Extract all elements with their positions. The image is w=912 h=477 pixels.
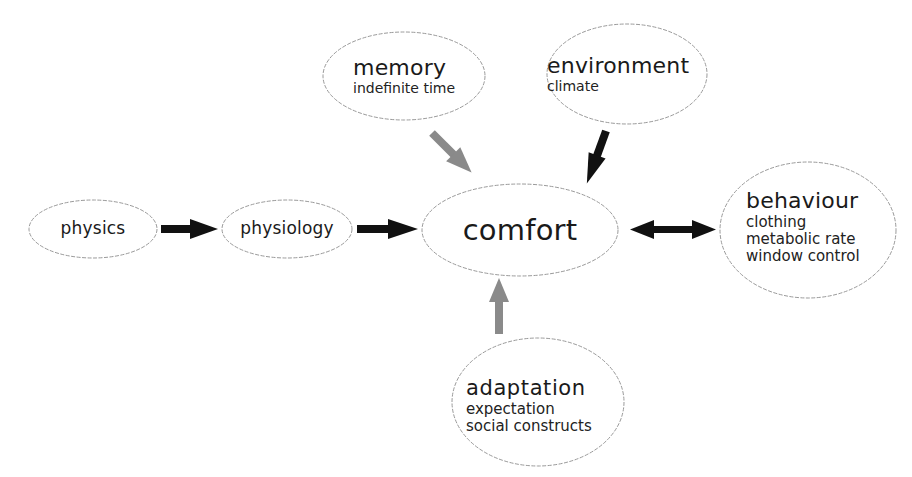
node-comfort: comfort	[422, 184, 618, 276]
arrow-physics-to-physiology	[161, 219, 218, 239]
node-physiology-title: physiology	[240, 220, 334, 238]
node-adaptation-item: expectation	[466, 401, 555, 418]
node-behaviour-item: metabolic rate	[746, 231, 855, 248]
node-adaptation-title: adaptation	[466, 377, 586, 399]
node-physiology: physiology	[222, 200, 352, 258]
node-environment-subtitle: climate	[547, 78, 599, 94]
arrow-physiology-to-comfort	[357, 219, 418, 239]
node-physics: physics	[29, 200, 157, 258]
node-behaviour: behaviour clothing metabolic rate window…	[746, 172, 896, 282]
node-adaptation-item: social constructs	[466, 418, 592, 435]
node-memory: memory indefinite time	[353, 44, 483, 108]
node-memory-subtitle: indefinite time	[353, 80, 455, 96]
node-physics-title: physics	[61, 220, 126, 238]
node-environment: environment climate	[547, 42, 707, 106]
node-behaviour-item: clothing	[746, 214, 806, 231]
node-behaviour-title: behaviour	[746, 189, 858, 212]
arrow-memory-to-comfort	[425, 126, 479, 180]
arrow-adaptation-to-comfort	[489, 278, 509, 334]
node-comfort-title: comfort	[463, 215, 578, 245]
node-adaptation: adaptation expectation social constructs	[466, 362, 626, 450]
node-environment-title: environment	[547, 54, 689, 77]
node-behaviour-item: window control	[746, 248, 860, 265]
node-memory-title: memory	[353, 56, 446, 79]
arrow-comfort-behaviour-bidirectional	[630, 220, 716, 239]
arrow-environment-to-comfort	[578, 128, 614, 187]
